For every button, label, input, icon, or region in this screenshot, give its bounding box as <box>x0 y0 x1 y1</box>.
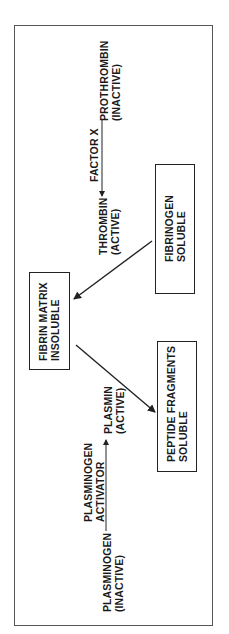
plasminogen-line1: PLASMINOGEN <box>101 533 113 612</box>
peptide-fragments-line1: PEPTIDE FRAGMENTS <box>165 346 177 462</box>
plasminogen-line2: (INACTIVE) <box>113 533 125 612</box>
plasminogen-activator-line1: PLASMINOGEN <box>82 443 94 522</box>
factor-x-label: FACTOR X <box>88 128 100 182</box>
thrombin-line2: (ACTIVE) <box>109 198 121 255</box>
plasmin-line1: PLASMIN <box>102 386 114 434</box>
plasminogen-activator-line2: ACTIVATOR <box>94 443 106 522</box>
prothrombin-line1: PROTHROMBIN <box>98 41 110 121</box>
plasminogen-activator-label: PLASMINOGEN ACTIVATOR <box>82 443 106 522</box>
peptide-fragments-label: PEPTIDE FRAGMENTS SOLUBLE <box>165 346 189 462</box>
factor-x-text: FACTOR X <box>88 128 100 182</box>
prothrombin-line2: (INACTIVE) <box>110 41 122 121</box>
fibrin-matrix-line1: FIBRIN MATRIX <box>37 282 49 361</box>
prothrombin-label: PROTHROMBIN (INACTIVE) <box>98 41 122 121</box>
fibrin-matrix-label: FIBRIN MATRIX INSOLUBLE <box>37 282 61 361</box>
peptide-fragments-line2: SOLUBLE <box>177 346 189 462</box>
thrombin-label: THROMBIN (ACTIVE) <box>97 198 121 255</box>
thrombin-line1: THROMBIN <box>97 198 109 255</box>
plasmin-line2: (ACTIVE) <box>114 386 126 434</box>
fibrin-matrix-line2: INSOLUBLE <box>49 282 61 361</box>
fibrinogen-label: FIBRINOGEN SOLUBLE <box>163 195 187 262</box>
plasmin-label: PLASMIN (ACTIVE) <box>102 386 126 434</box>
fibrinogen-line1: FIBRINOGEN <box>163 195 175 262</box>
plasminogen-label: PLASMINOGEN (INACTIVE) <box>101 533 125 612</box>
fibrinogen-line2: SOLUBLE <box>175 195 187 262</box>
